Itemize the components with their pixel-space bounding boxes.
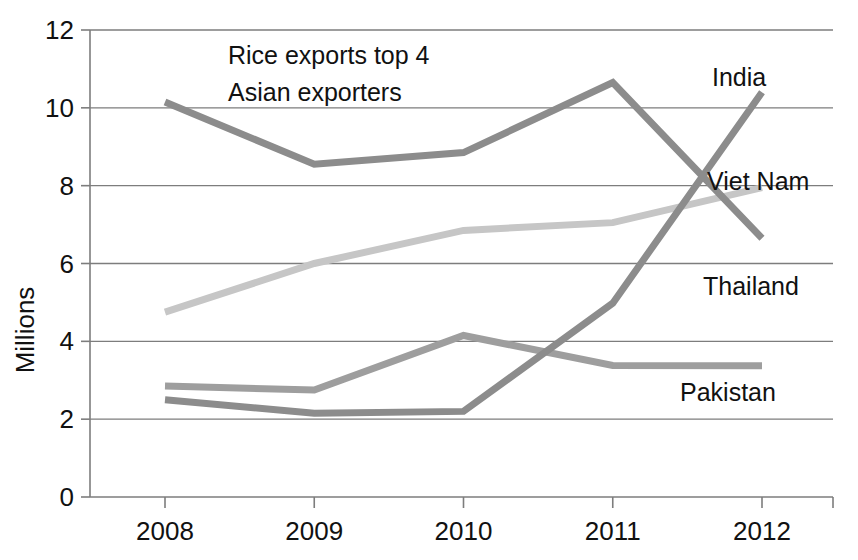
y-tick-label: 0 [60, 482, 74, 512]
series-label-pakistan: Pakistan [680, 378, 776, 406]
series-line-viet-nam [165, 188, 762, 313]
gridlines-group [90, 30, 833, 497]
annotation-line-2: Asian exporters [228, 78, 402, 106]
y-tick-label: 12 [45, 15, 74, 45]
y-tick-label: 6 [60, 249, 74, 279]
x-tick-label: 2009 [285, 516, 343, 546]
series-label-thailand: Thailand [703, 272, 799, 300]
y-axis-title: Millions [10, 287, 40, 374]
x-tick-marks-group [165, 497, 833, 508]
x-tick-label: 2011 [585, 516, 641, 546]
chart-container: 024681012 20082009201020112012 Millions … [0, 0, 858, 560]
x-tick-labels-group: 20082009201020112012 [136, 516, 791, 546]
series-label-viet-nam: Viet Nam [707, 167, 809, 195]
annotation-line-1: Rice exports top 4 [228, 41, 430, 69]
y-tick-labels-group: 024681012 [45, 15, 74, 512]
series-label-india: India [712, 63, 766, 91]
x-tick-label: 2008 [136, 516, 194, 546]
y-tick-label: 2 [60, 404, 74, 434]
y-tick-label: 10 [45, 93, 74, 123]
series-line-pakistan [165, 335, 762, 389]
line-chart: 024681012 20082009201020112012 Millions … [0, 0, 858, 560]
y-tick-label: 8 [60, 171, 74, 201]
y-tick-label: 4 [60, 326, 74, 356]
y-tick-marks-group [81, 30, 90, 497]
x-tick-label: 2010 [435, 516, 493, 546]
x-tick-label: 2012 [733, 516, 791, 546]
series-lines-group [165, 83, 762, 414]
